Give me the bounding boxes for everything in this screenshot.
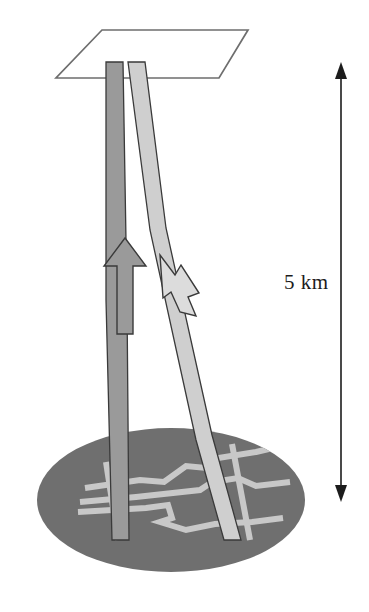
diagram-canvas: 5 km	[0, 0, 369, 612]
geological-diagram	[0, 0, 369, 612]
scale-bar-label: 5 km	[284, 270, 329, 295]
surface-plane	[56, 30, 248, 78]
scale-bar-arrowhead-up	[335, 62, 347, 79]
vertical-scale-bar	[335, 62, 347, 502]
scale-bar-arrowhead-down	[335, 485, 347, 502]
downward-flow-arrow	[160, 255, 199, 316]
